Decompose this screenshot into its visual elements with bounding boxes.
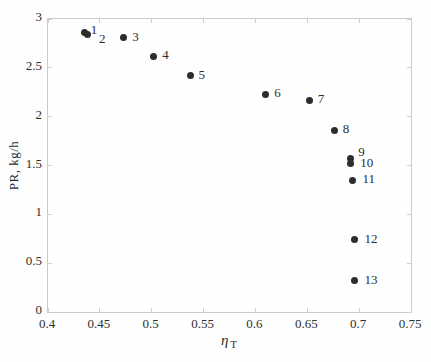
y-tick-mark	[407, 312, 411, 313]
data-point	[349, 177, 356, 184]
x-tick-mark	[151, 19, 152, 23]
y-tick-label: 1	[0, 205, 42, 219]
data-point-label: 11	[362, 172, 375, 186]
x-tick-label: 0.6	[232, 317, 276, 331]
y-tick-label: 0.5	[0, 254, 42, 268]
x-tick-mark	[48, 19, 49, 23]
x-tick-mark	[255, 19, 256, 23]
y-tick-mark	[48, 312, 52, 313]
data-point	[347, 160, 354, 167]
data-point	[351, 236, 358, 243]
x-tick-mark	[99, 308, 100, 312]
data-point	[150, 53, 157, 60]
y-tick-label: 3	[0, 10, 42, 24]
x-tick-mark	[307, 308, 308, 312]
x-tick-label: 0.65	[284, 317, 328, 331]
data-point-label: 6	[274, 86, 281, 100]
y-tick-mark	[407, 116, 411, 117]
x-tick-label: 0.55	[181, 317, 225, 331]
x-tick-mark	[359, 308, 360, 312]
x-tick-mark	[255, 308, 256, 312]
data-point-label: 1	[91, 23, 98, 37]
x-tick-mark	[99, 19, 100, 23]
y-tick-mark	[48, 19, 52, 20]
x-tick-label: 0.4	[25, 317, 69, 331]
x-tick-label: 0.75	[388, 317, 431, 331]
scatter-plot-figure: 12345678910111213 PR, kg/h ηT 0.40.450.5…	[0, 0, 431, 362]
y-tick-mark	[48, 116, 52, 117]
data-point-label: 2	[99, 32, 106, 46]
y-tick-mark	[407, 67, 411, 68]
y-tick-mark	[407, 263, 411, 264]
y-tick-mark	[48, 214, 52, 215]
y-tick-label: 2	[0, 108, 42, 122]
y-tick-mark	[407, 19, 411, 20]
data-point	[120, 34, 127, 41]
x-tick-label: 0.7	[336, 317, 380, 331]
x-tick-mark	[359, 19, 360, 23]
y-tick-mark	[48, 165, 52, 166]
y-tick-mark	[407, 165, 411, 166]
data-point	[262, 91, 269, 98]
data-point	[306, 97, 313, 104]
data-point	[351, 277, 358, 284]
x-tick-mark	[203, 19, 204, 23]
y-tick-label: 0	[0, 303, 42, 317]
x-axis-label-eta: η	[221, 332, 228, 348]
data-point-label: 12	[364, 232, 377, 246]
data-point-label: 10	[360, 156, 373, 170]
data-point-label: 4	[162, 48, 169, 62]
data-point	[84, 31, 91, 38]
x-tick-mark	[203, 308, 204, 312]
x-tick-label: 0.45	[77, 317, 121, 331]
x-tick-mark	[151, 308, 152, 312]
x-tick-label: 0.5	[129, 317, 173, 331]
x-tick-mark	[411, 19, 412, 23]
data-point-label: 7	[318, 92, 325, 106]
y-tick-mark	[407, 214, 411, 215]
y-tick-mark	[48, 263, 52, 264]
y-tick-label: 2.5	[0, 59, 42, 73]
data-point-label: 13	[364, 273, 377, 287]
data-point-label: 3	[132, 30, 139, 44]
x-axis-label: ηT	[179, 332, 279, 350]
plot-area: 12345678910111213	[47, 18, 412, 313]
data-point-label: 8	[343, 122, 350, 136]
x-axis-label-subscript: T	[230, 338, 237, 350]
data-point-label: 5	[199, 68, 206, 82]
y-tick-mark	[48, 67, 52, 68]
x-tick-mark	[307, 19, 308, 23]
data-point	[187, 72, 194, 79]
data-point	[331, 127, 338, 134]
y-tick-label: 1.5	[0, 157, 42, 171]
